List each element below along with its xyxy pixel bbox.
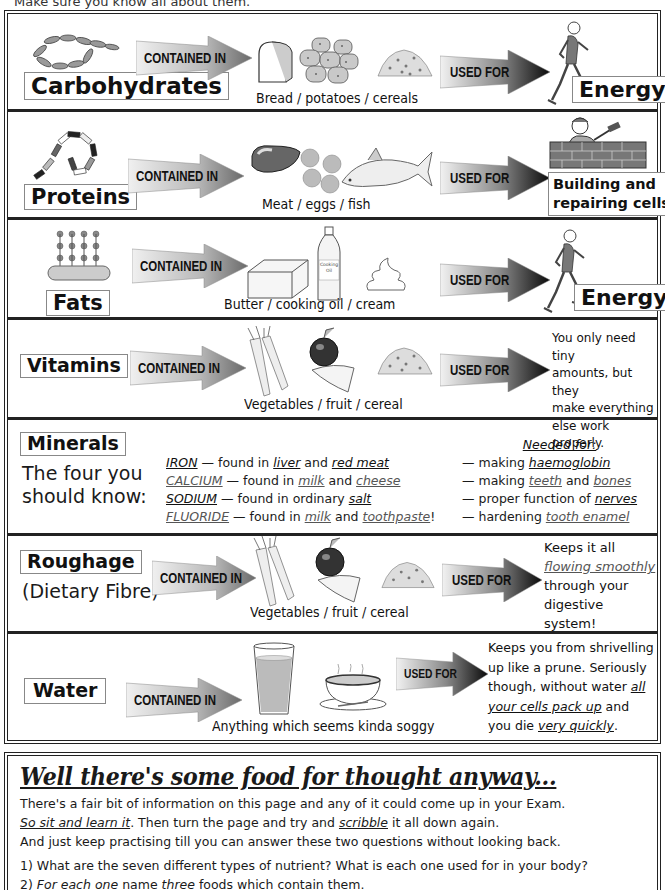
row-proteins: Proteins CONTAINED IN Meat / eggs / fish… xyxy=(8,112,657,220)
vitamins-foods: Vegetables / fruit / cereal xyxy=(244,396,403,412)
used-for-arrow: USED FOR xyxy=(440,156,550,200)
roughage-use-text: Keeps it all flowing smoothly through yo… xyxy=(544,538,657,633)
nutrients-table: Carbohydrates CONTAINED IN Bread / potat… xyxy=(4,10,661,744)
intro-text: Make sure you know all about them. xyxy=(14,0,250,9)
bread-icon xyxy=(256,40,294,84)
mineral-row-calcium: CALCIUM — found in milk and cheese xyxy=(166,472,435,490)
roughage-foods: Vegetables / fruit / cereal xyxy=(250,604,409,620)
used-for-arrow: USED FOR xyxy=(396,652,488,696)
nutrient-label-fats: Fats xyxy=(46,290,110,316)
row-minerals: Minerals The four you should know: IRON … xyxy=(8,420,657,536)
nutrient-label-minerals: Minerals xyxy=(20,432,126,456)
minerals-sources: IRON — found in liver and red meat CALCI… xyxy=(166,454,435,526)
proteins-foods: Meat / eggs / fish xyxy=(262,196,371,212)
mineral-row-fluoride: FLUORIDE — found in milk and toothpaste! xyxy=(166,508,435,526)
row-vitamins: Vitamins CONTAINED IN Vegetables / fruit… xyxy=(8,320,657,420)
contained-in-arrow: CONTAINED IN xyxy=(136,36,252,80)
summary-box: Well there's some food for thought anywa… xyxy=(4,752,661,890)
potatoes-icon xyxy=(298,36,360,84)
water-use-text: Keeps you from shrivelling up like a pru… xyxy=(488,638,654,736)
contained-in-arrow: CONTAINED IN xyxy=(128,154,244,198)
nutrient-label-roughage: Roughage xyxy=(20,550,142,574)
used-for-arrow: USED FOR xyxy=(440,348,550,392)
glass-of-water-icon xyxy=(252,642,296,716)
mineral-row-iron: IRON — found in liver and red meat xyxy=(166,454,435,472)
used-for-arrow: USED FOR xyxy=(440,258,550,302)
used-for-arrow: USED FOR xyxy=(440,50,550,94)
cream-icon xyxy=(364,256,408,294)
vegetables-icon xyxy=(242,326,312,398)
roughage-subtitle: (Dietary Fibre) xyxy=(22,580,159,603)
minerals-needed-for: Needed for: — making haemoglobin — makin… xyxy=(462,436,637,526)
bricklayer-icon xyxy=(548,114,648,170)
mineral-row-sodium: SODIUM — found in ordinary salt xyxy=(166,490,435,508)
soup-bowl-icon xyxy=(318,664,388,712)
meat-icon xyxy=(248,142,304,178)
fats-foods: Butter / cooking oil / cream xyxy=(224,296,395,312)
used-for-arrow: USED FOR xyxy=(442,558,542,602)
cereal-icon xyxy=(376,48,434,78)
fish-icon xyxy=(338,142,434,192)
summary-line-1: There's a fair bit of information on thi… xyxy=(20,796,565,811)
water-foods: Anything which seems kinda soggy xyxy=(212,718,434,734)
contained-in-arrow: CONTAINED IN xyxy=(132,244,248,288)
cereal-icon xyxy=(380,560,436,590)
question-1: 1) What are the seven different types of… xyxy=(20,858,588,873)
carbohydrates-foods: Bread / potatoes / cereals xyxy=(256,90,418,106)
nutrient-label-water: Water xyxy=(24,678,106,704)
vegetables-icon xyxy=(248,536,318,608)
needed-for-heading: Needed for: xyxy=(523,437,597,452)
contained-in-arrow: CONTAINED IN xyxy=(126,678,242,722)
use-label-energy: Energy xyxy=(574,284,665,311)
butter-icon xyxy=(246,258,310,300)
summary-line-2: So sit and learn it. Then turn the page … xyxy=(20,815,499,830)
use-label-building: Building and repairing cells xyxy=(548,172,665,216)
row-carbohydrates: Carbohydrates CONTAINED IN Bread / potat… xyxy=(8,14,657,112)
cereal-icon xyxy=(376,346,434,376)
fat-molecule-icon xyxy=(46,228,112,284)
fruit-icon xyxy=(304,326,374,398)
question-2: 2) For each one name three foods which c… xyxy=(20,877,364,890)
row-fats: Fats CONTAINED IN Cooking Oil Butter / c… xyxy=(8,220,657,320)
amino-acid-chain-icon xyxy=(30,128,110,188)
contained-in-arrow: CONTAINED IN xyxy=(130,346,246,390)
use-label-energy: Energy xyxy=(572,76,665,103)
nutrient-label-proteins: Proteins xyxy=(24,184,137,210)
nutrient-label-vitamins: Vitamins xyxy=(20,354,128,378)
summary-title: Well there's some food for thought anywa… xyxy=(20,762,556,791)
minerals-subtitle: The four you should know: xyxy=(22,462,147,508)
row-water: Water CONTAINED IN Anything which seems … xyxy=(8,634,657,740)
glucose-chain-icon xyxy=(30,26,120,71)
fruit-icon xyxy=(310,536,380,608)
row-roughage: Roughage (Dietary Fibre) CONTAINED IN Ve… xyxy=(8,536,657,634)
summary-line-3: And just keep practising till you can an… xyxy=(20,834,561,849)
oil-label: Cooking Oil xyxy=(319,262,339,274)
contained-in-arrow: CONTAINED IN xyxy=(152,556,256,600)
